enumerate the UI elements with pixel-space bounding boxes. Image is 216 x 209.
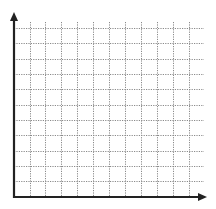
y-axis-arrow-icon (10, 12, 18, 21)
coordinate-grid (0, 0, 216, 209)
x-axis-arrow-icon (198, 193, 207, 201)
vertical-grid-lines (31, 22, 190, 197)
